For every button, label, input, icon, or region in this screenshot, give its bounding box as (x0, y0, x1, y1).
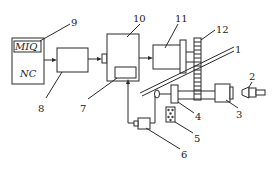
leader-9 (40, 24, 70, 41)
leader-3 (226, 100, 238, 108)
leader-5 (175, 122, 193, 133)
tool-shank (256, 90, 265, 95)
label-8: 8 (38, 103, 44, 114)
servo-motor-box (153, 45, 181, 69)
arrowhead-icon (148, 56, 153, 60)
tool-body (249, 88, 256, 97)
encoder-box (138, 118, 150, 129)
leader-12 (201, 30, 215, 40)
label-12: 12 (216, 24, 229, 35)
leader-6 (146, 128, 180, 149)
nc-label: NC (19, 68, 37, 79)
miq-label: MIQ (14, 41, 37, 52)
label-2: 2 (249, 71, 255, 82)
chuck-face (230, 87, 233, 99)
motor-flange (180, 40, 186, 73)
label-10: 10 (133, 13, 146, 24)
leader-8 (46, 72, 62, 98)
drive-amplifier-box (57, 48, 88, 72)
label-3: 3 (236, 109, 242, 120)
label-4: 4 (195, 111, 201, 122)
schematic-diagram: MIQ NC 9 8 10 7 11 12 1 (0, 0, 273, 170)
carriage-block (171, 85, 178, 103)
arrowhead-icon (52, 58, 57, 62)
leader-4 (178, 102, 194, 113)
label-1: 1 (235, 44, 241, 55)
label-7: 7 (80, 103, 86, 114)
label-11: 11 (175, 13, 188, 24)
interface-card-box (115, 67, 136, 78)
connector-10 (102, 54, 107, 63)
tool-tip (242, 87, 249, 98)
leader-11 (165, 24, 178, 48)
encoder-stub (134, 121, 138, 126)
label-9: 9 (71, 17, 77, 28)
arrowhead-icon (97, 57, 102, 61)
label-5: 5 (194, 133, 200, 144)
label-6: 6 (181, 149, 187, 160)
chuck-box (215, 84, 230, 102)
leader-7 (88, 78, 117, 99)
leader-2 (249, 82, 252, 87)
